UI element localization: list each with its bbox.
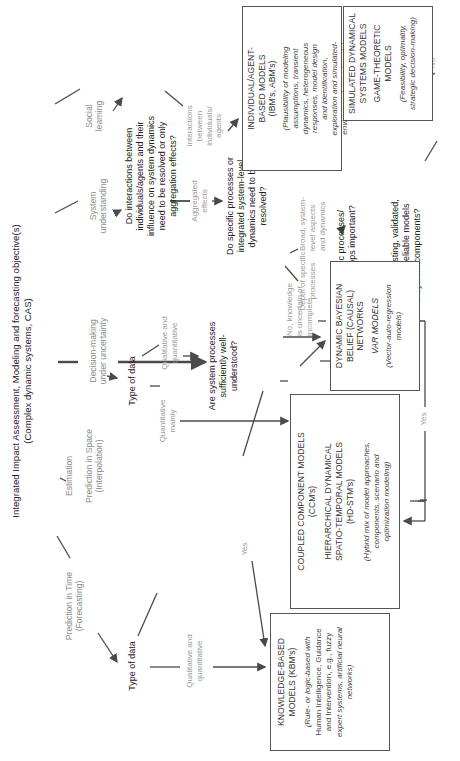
box-coupled-component-models: COUPLED COMPONENT MODELS (CCM's) HIERARC… <box>290 394 400 609</box>
objective-system-understanding: Systemunderstanding <box>88 166 109 246</box>
box-dynamic-bayesian-networks: DYNAMIC BAYESIAN BELIEF (CAUSAL) NETWORK… <box>330 261 420 391</box>
title-line-2: (Complex dynamic systems, CAS) <box>22 298 33 444</box>
label-quantitative-mainly: Quantitativemainly <box>158 386 178 456</box>
label-qual-quant-1: Qualitative andquantitative <box>185 621 205 701</box>
box-agent-based-models: INDIVIDUAL/AGENT- BASED MODELS (IBM's, A… <box>242 6 342 171</box>
box-knowledge-based-models: KNOWLEDGE-BASED MODELS (KBM's) (Rule- or… <box>270 613 390 751</box>
objective-interpolation: Prediction in Space(Interpolation) <box>84 416 105 516</box>
objective-forecasting: Prediction in Time(Forecasting) <box>64 561 85 651</box>
box-simulated-dynamical-systems: SIMULATED DYNAMICAL SYSTEMS MODELS GAME-… <box>343 6 433 121</box>
type-of-data-interpolation: Type of data <box>127 346 138 416</box>
label-depth-processes: Depth of specificprocesses <box>298 241 318 321</box>
label-yes-existing: Yes <box>419 407 429 431</box>
objective-social-learning: Sociallearning <box>84 81 105 151</box>
question-interactions: Do interactions between individuals/agen… <box>124 101 179 251</box>
objective-decision-making: Decision-makingunder uncertainty <box>88 301 109 401</box>
type-of-data-forecasting: Type of data <box>127 631 138 701</box>
title-line-1: Integrated Impact Assessment, Modeling a… <box>10 224 21 517</box>
label-yes-well-understood: Yes <box>240 534 250 564</box>
flowchart-canvas: Integrated Impact Assessment, Modeling a… <box>0 0 460 761</box>
objective-estimation: Estimation <box>64 446 74 506</box>
label-aggregated-effects: Aggregatedeffects <box>190 166 210 236</box>
question-well-understood: Are system processes sufficiently well- … <box>207 311 240 421</box>
label-broad-system: Broad, system-level aspectsand dynamics <box>298 176 327 251</box>
label-qual-quant-2: Qualitative andquantitative <box>160 303 180 383</box>
diagram-title: Integrated Impact Assessment, Modeling a… <box>10 91 33 651</box>
label-interactions-agents: Interactionsbetweenindividuals/agents <box>185 86 224 166</box>
